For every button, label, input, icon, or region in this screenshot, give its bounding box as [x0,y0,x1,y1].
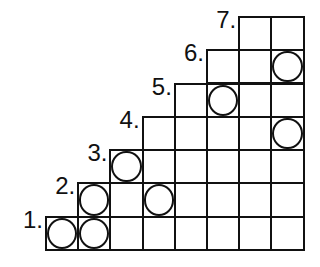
grid-cell [270,83,304,118]
staircase-grid-diagram: 1.2.3.4.5.6.7. [0,0,320,267]
grid-cell [206,49,240,84]
grid-cell [206,216,240,251]
row-label: 4. [106,108,140,132]
circle-marker [144,184,174,215]
grid-cell [270,149,304,184]
grid-cell [142,149,176,184]
grid-cell [270,182,304,217]
circle-marker [47,218,77,249]
grid-cell [174,149,208,184]
grid-cell [206,116,240,151]
grid-cell [174,182,208,217]
grid-cell [238,216,272,251]
grid-cell [238,182,272,217]
grid-cell [206,149,240,184]
row-label: 7. [202,8,236,32]
row-label: 1. [9,208,43,232]
grid-cell [174,216,208,251]
grid-cell [109,216,143,251]
grid-cell [238,16,272,51]
grid-cell [238,149,272,184]
grid-cell [270,16,304,51]
grid-cell [238,49,272,84]
grid-cell [109,182,143,217]
grid-cell [174,83,208,118]
row-label: 6. [170,41,204,65]
grid-cell [270,216,304,251]
grid-cell [238,116,272,151]
grid-cell [206,182,240,217]
row-label: 3. [73,141,107,165]
grid-cell [174,116,208,151]
grid-cell [142,216,176,251]
circle-marker [272,118,302,149]
row-label: 2. [41,174,75,198]
circle-marker [272,51,302,82]
row-label: 5. [138,75,172,99]
grid-cell [142,116,176,151]
circle-marker [79,184,109,215]
circle-marker [208,85,238,116]
circle-marker [111,151,141,182]
grid-cell [238,83,272,118]
